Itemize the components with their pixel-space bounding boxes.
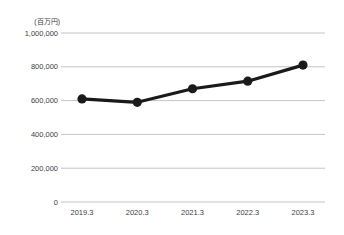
data-point bbox=[77, 94, 86, 103]
y-tick-label: 400,000 bbox=[31, 130, 58, 139]
gridlines-group bbox=[61, 33, 325, 202]
data-point bbox=[133, 98, 142, 107]
x-tick-label: 2019.3 bbox=[71, 208, 94, 217]
y-tick-label: 0 bbox=[54, 198, 58, 207]
chart-canvas: (百万円) 0200,000400,000600,000800,0001,000… bbox=[0, 0, 344, 235]
y-tick-label: 600,000 bbox=[31, 96, 58, 105]
unit-label: (百万円) bbox=[34, 18, 60, 26]
y-axis-labels-group: 0200,000400,000600,000800,0001,000,000 bbox=[25, 29, 58, 207]
y-tick-label: 1,000,000 bbox=[25, 29, 58, 38]
x-tick-label: 2020.3 bbox=[126, 208, 149, 217]
data-point bbox=[243, 77, 252, 86]
trend-line bbox=[82, 65, 303, 102]
x-tick-label: 2021.3 bbox=[181, 208, 204, 217]
data-point bbox=[298, 61, 307, 70]
series-group bbox=[77, 61, 307, 107]
y-tick-label: 800,000 bbox=[31, 62, 58, 71]
x-axis-labels-group: 2019.32020.32021.32022.32023.3 bbox=[71, 208, 315, 217]
data-point bbox=[188, 84, 197, 93]
y-tick-label: 200,000 bbox=[31, 164, 58, 173]
x-tick-label: 2023.3 bbox=[292, 208, 315, 217]
line-chart: (百万円) 0200,000400,000600,000800,0001,000… bbox=[0, 0, 344, 235]
x-tick-label: 2022.3 bbox=[236, 208, 259, 217]
